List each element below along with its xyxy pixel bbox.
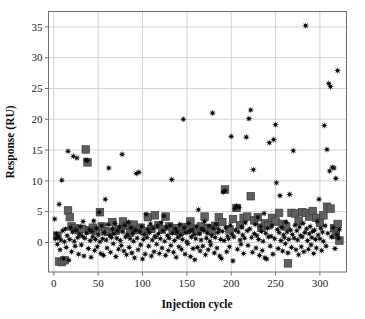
- data-point-star8: [304, 237, 311, 244]
- data-point-star8: [105, 164, 112, 171]
- data-point-star8: [110, 240, 117, 247]
- data-point-square: [309, 207, 317, 215]
- data-point-star8: [159, 244, 166, 251]
- data-point-star8: [112, 220, 119, 227]
- data-point-star8: [180, 116, 187, 123]
- data-point-star8: [84, 157, 91, 164]
- data-point-star8: [190, 245, 197, 252]
- y-axis-title: Response (RU): [4, 105, 17, 178]
- data-point-star8: [290, 147, 297, 154]
- data-point-star8: [249, 249, 256, 256]
- data-point-star8: [95, 232, 102, 239]
- data-point-star8: [187, 253, 194, 260]
- data-point-star8: [319, 228, 326, 235]
- data-point-star8: [228, 133, 235, 140]
- data-point-star8: [229, 257, 236, 264]
- data-point-star8: [269, 222, 276, 229]
- data-point-star8: [284, 249, 291, 256]
- data-point-star8: [160, 212, 167, 219]
- data-point-square: [291, 210, 299, 218]
- data-point-star8: [237, 241, 244, 248]
- data-point-star8: [225, 235, 232, 242]
- data-point-star8: [235, 228, 242, 235]
- data-point-star8: [151, 248, 158, 255]
- x-tick-label: 100: [134, 277, 151, 289]
- data-point-star8: [243, 134, 250, 141]
- data-point-star8: [54, 241, 61, 248]
- data-point-star8: [263, 256, 270, 263]
- data-point-star8: [198, 236, 205, 243]
- data-point-star8: [272, 121, 279, 128]
- data-point-star8: [65, 257, 72, 264]
- data-point-star8: [72, 243, 79, 250]
- data-point-star8: [332, 175, 339, 182]
- data-point-star8: [131, 254, 138, 261]
- data-point-star8: [213, 220, 220, 227]
- data-point-star8: [158, 219, 165, 226]
- data-point-star8: [266, 139, 273, 146]
- data-point-star8: [168, 176, 175, 183]
- data-point-star8: [321, 122, 328, 129]
- y-tick-label: 15: [32, 144, 44, 156]
- data-point-star8: [102, 196, 109, 203]
- data-point-star8: [283, 219, 290, 226]
- data-point-star8: [241, 235, 248, 242]
- data-point-star8: [100, 252, 107, 259]
- data-point-square: [284, 260, 292, 268]
- data-point-star8: [221, 187, 228, 194]
- data-point-square: [82, 146, 90, 154]
- data-point-star8: [109, 225, 116, 232]
- data-point-star8: [116, 224, 123, 231]
- y-tick-label: 10: [32, 175, 44, 187]
- data-point-star8: [85, 245, 92, 252]
- data-point-star8: [137, 241, 144, 248]
- data-point-star8: [96, 209, 103, 216]
- data-point-star8: [126, 244, 133, 251]
- data-point-star8: [98, 222, 105, 229]
- data-point-star8: [184, 240, 191, 247]
- data-point-star8: [143, 211, 150, 218]
- data-point-star8: [259, 247, 266, 254]
- data-point-square: [327, 205, 335, 213]
- chart-figure: 050100150200250300 05101520253035 Inject…: [0, 0, 365, 319]
- data-point-star8: [167, 222, 174, 229]
- data-point-star8: [191, 256, 198, 263]
- data-point-star8: [142, 251, 149, 258]
- data-point-star8: [267, 243, 274, 250]
- data-point-star8: [58, 177, 65, 184]
- data-point-star8: [322, 222, 329, 229]
- data-point-star8: [153, 241, 160, 248]
- data-point-star8: [242, 219, 249, 226]
- y-tick-label: 20: [32, 113, 44, 125]
- data-point-star8: [123, 251, 130, 258]
- data-point-star8: [310, 250, 317, 257]
- data-point-star8: [117, 237, 124, 244]
- data-point-star8: [253, 244, 260, 251]
- data-point-star8: [145, 243, 152, 250]
- y-tick-label: 0: [37, 236, 43, 248]
- data-point-star8: [273, 179, 280, 186]
- data-point-square: [66, 213, 74, 221]
- data-point-star8: [247, 107, 254, 114]
- data-point-square: [247, 193, 255, 201]
- data-point-star8: [311, 227, 318, 234]
- x-tick-label: 50: [93, 277, 105, 289]
- x-tick-label: 250: [267, 277, 284, 289]
- data-point-star8: [246, 225, 253, 232]
- x-tick-label: 300: [312, 277, 329, 289]
- data-point-star8: [314, 218, 321, 225]
- data-point-star8: [155, 230, 162, 237]
- data-point-square: [243, 213, 251, 221]
- data-point-star8: [260, 238, 267, 245]
- data-point-star8: [323, 146, 330, 153]
- data-point-star8: [199, 243, 206, 250]
- data-point-star8: [269, 251, 276, 258]
- data-point-square: [275, 209, 283, 217]
- data-point-star8: [218, 255, 225, 262]
- data-point-star8: [125, 219, 132, 226]
- data-point-square: [64, 207, 72, 215]
- data-point-star8: [240, 250, 247, 257]
- data-point-star8: [327, 83, 334, 90]
- data-point-star8: [278, 224, 285, 231]
- data-point-star8: [207, 241, 214, 248]
